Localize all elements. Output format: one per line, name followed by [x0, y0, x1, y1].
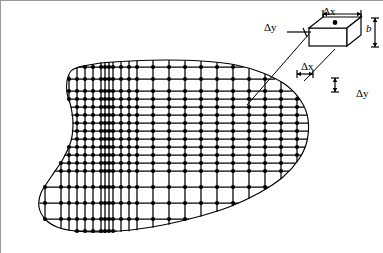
label-detail-thickness-b: b	[366, 23, 372, 34]
label-grid-delta-x: Δx	[301, 61, 314, 72]
figure-frame: Δy Δx b Δx Δy	[0, 0, 383, 253]
hull-grid-diagram	[1, 1, 383, 253]
label-grid-delta-y: Δy	[356, 88, 369, 99]
detail-element-box	[309, 17, 361, 46]
label-detail-delta-y: Δy	[264, 22, 277, 33]
label-detail-delta-x: Δx	[323, 6, 336, 17]
